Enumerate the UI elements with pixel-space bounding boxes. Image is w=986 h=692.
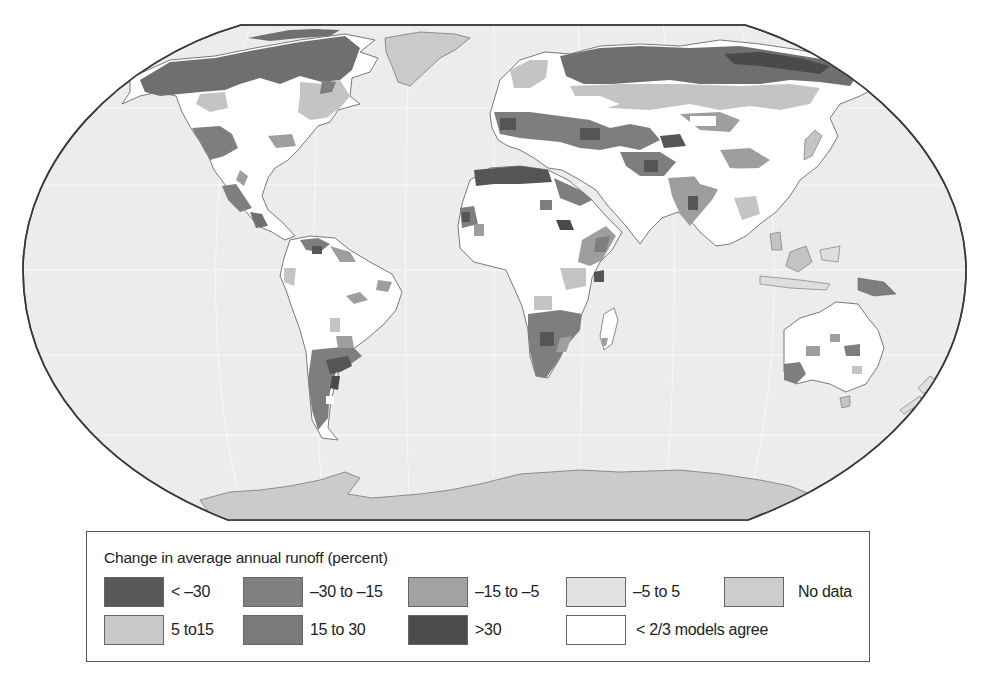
legend-item-5-to-15: 5 to15 [104, 614, 214, 646]
legend-swatch [566, 615, 626, 645]
legend-item-m30-to-m15: –30 to –15 [243, 576, 383, 608]
legend-swatch [243, 615, 303, 645]
legend-item-m5-to-5: –5 to 5 [566, 576, 680, 608]
world-runoff-map [0, 0, 986, 530]
legend-swatch [104, 577, 164, 607]
legend: Change in average annual runoff (percent… [86, 531, 870, 662]
legend-swatch [724, 577, 784, 607]
legend-item-gt-30: >30 [408, 614, 501, 646]
legend-item-lt-minus30: < –30 [104, 576, 210, 608]
legend-swatch [408, 577, 468, 607]
legend-swatch [104, 615, 164, 645]
legend-item-models-disagree: < 2/3 models agree [566, 614, 768, 646]
legend-swatch [408, 615, 468, 645]
legend-swatch [566, 577, 626, 607]
legend-title: Change in average annual runoff (percent… [104, 549, 388, 567]
legend-swatch [243, 577, 303, 607]
legend-item-15-to-30: 15 to 30 [243, 614, 365, 646]
legend-item-no-data: No data [724, 576, 852, 608]
legend-item-m15-to-m5: –15 to –5 [408, 576, 539, 608]
